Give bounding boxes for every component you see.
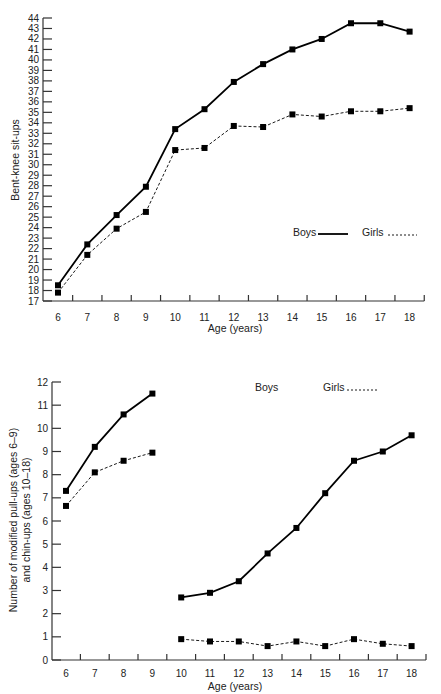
girls-data-point [377,108,383,114]
y-tick-label: 10 [37,423,49,434]
y-tick-label: 26 [28,201,40,212]
girls-data-point [84,252,90,258]
y-tick-label: 28 [28,180,40,191]
y-tick-label: 24 [28,222,40,233]
x-axis: 6789101112131415161718 [52,654,426,679]
boys-data-point [265,550,271,556]
girls-data-point [236,638,242,644]
x-tick-label: 12 [233,668,245,679]
y-tick-label: 9 [42,446,48,457]
girls-data-point [143,209,149,215]
girls-data-point [348,108,354,114]
y-tick-label: 34 [28,117,40,128]
y-axis: 0123456789101112 [37,377,61,666]
y-tick-label: 44 [28,13,40,24]
y-tick-label: 0 [42,655,48,666]
x-tick-label: 17 [375,312,387,323]
boys-data-point [121,411,127,417]
x-tick-label: 8 [114,312,120,323]
boys-series-line [181,435,411,597]
girls-data-point [149,450,155,456]
girls-data-point [231,123,237,129]
y-tick-label: 27 [28,191,40,202]
x-tick-label: 6 [55,312,61,323]
x-tick-label: 14 [291,668,303,679]
y-tick-label: 8 [42,469,48,480]
boys-data-point [63,488,69,494]
girls-data-point [92,469,98,475]
boys-data-point [260,61,266,67]
boys-data-point [289,46,295,52]
girls-data-point [207,638,213,644]
boys-data-point [55,282,61,288]
legend-boys-label: Boys [293,226,316,238]
boys-data-point [351,458,357,464]
boys-data-point [319,36,325,42]
boys-data-point [293,525,299,531]
y-axis: 1718192021222324252627282930313233343536… [28,13,52,307]
boys-data-point [236,578,242,584]
girls-data-point [322,643,328,649]
boys-data-point [207,590,213,596]
y-tick-label: 40 [28,54,40,65]
boys-data-point [409,432,415,438]
y-tick-label: 25 [28,212,40,223]
x-tick-label: 15 [320,668,332,679]
y-tick-label: 2 [42,608,48,619]
girls-data-point [289,111,295,117]
boys-data-point [178,594,184,600]
girls-data-point [380,641,386,647]
y-tick-label: 4 [42,562,48,573]
x-tick-label: 13 [262,668,274,679]
y-tick-label: 22 [28,243,40,254]
girls-data-point [63,503,69,509]
y-tick-label: 17 [28,296,40,307]
y-tick-label: 32 [28,138,40,149]
x-tick-label: 15 [316,312,328,323]
legend-girls-label: Girls [362,226,384,238]
boys-data-point [84,241,90,247]
x-tick-label: 18 [404,312,416,323]
x-axis-title: Age (years) [208,322,262,334]
x-axis: 6789101112131415161718 [43,295,424,323]
girls-data-point [55,290,61,296]
boys-data-point [172,126,178,132]
girls-data-point [114,226,120,232]
legend-boys-label: Boys [255,381,278,393]
girls-data-point [260,124,266,130]
y-tick-label: 23 [28,233,40,244]
y-tick-label: 1 [42,631,48,642]
x-tick-label: 10 [170,312,182,323]
boys-data-point [114,212,120,218]
x-tick-label: 6 [63,668,69,679]
y-tick-label: 37 [28,86,40,97]
boys-data-point [348,20,354,26]
x-tick-label: 14 [287,312,299,323]
boys-data-point [149,391,155,397]
girls-data-point [407,105,413,111]
y-tick-label: 36 [28,96,40,107]
legend-girls-label: Girls [323,381,345,393]
y-tick-label: 18 [28,285,40,296]
girls-series-line [58,108,410,292]
y-tick-label: 7 [42,492,48,503]
y-tick-label: 33 [28,128,40,139]
x-tick-label: 7 [92,668,98,679]
girls-series-line [66,453,152,506]
y-tick-label: 29 [28,170,40,181]
y-tick-label: 31 [28,149,40,160]
y-tick-label: 42 [28,33,40,44]
x-tick-label: 16 [348,668,360,679]
x-tick-label: 7 [85,312,91,323]
y-tick-label: 20 [28,264,40,275]
y-tick-label: 5 [42,539,48,550]
pull-ups-chart: 0123456789101112 6789101112131415161718 … [7,377,426,693]
x-axis-title: Age (years) [208,680,262,692]
x-tick-label: 18 [406,668,418,679]
girls-data-point [172,147,178,153]
x-tick-label: 17 [377,668,389,679]
y-tick-label: 35 [28,107,40,118]
y-tick-label: 12 [37,377,49,388]
x-tick-label: 10 [176,668,188,679]
x-tick-label: 16 [345,312,357,323]
